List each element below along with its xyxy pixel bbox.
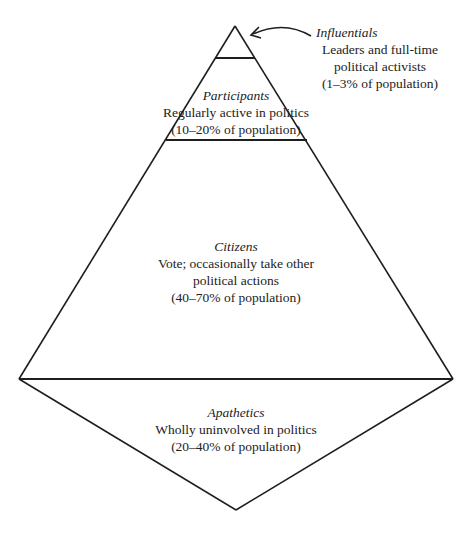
participation-pyramid-diagram: Influentials Leaders and full-time polit…	[0, 0, 473, 533]
tier-description: Vote; occasionally take other	[126, 255, 346, 272]
tier-name: Apathetics	[126, 404, 346, 421]
tier-share: (40–70% of population)	[126, 289, 346, 306]
tier-name: Citizens	[126, 238, 346, 255]
pyramid-left-edge	[19, 26, 235, 379]
tier-description: political actions	[126, 272, 346, 289]
tier-name: Participants	[136, 87, 336, 104]
tier-description: Regularly active in politics	[136, 104, 336, 121]
tier-influentials: Influentials Leaders and full-time polit…	[300, 24, 460, 92]
tier-description: Wholly uninvolved in politics	[126, 421, 346, 438]
tier-description: Leaders and full-time	[300, 41, 460, 58]
tier-share: (20–40% of population)	[126, 438, 346, 455]
tier-name: Influentials	[300, 24, 460, 41]
tier-participants: Participants Regularly active in politic…	[136, 87, 336, 138]
tier-citizens: Citizens Vote; occasionally take other p…	[126, 238, 346, 306]
tier-apathetics: Apathetics Wholly uninvolved in politics…	[126, 404, 346, 455]
tier-description: political activists	[300, 58, 460, 75]
tier-share: (10–20% of population)	[136, 121, 336, 138]
